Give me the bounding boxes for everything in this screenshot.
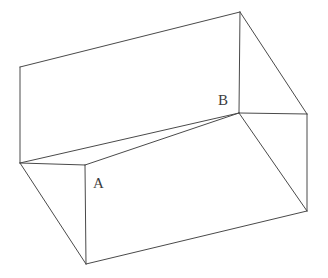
vertex-label-b: B [218, 92, 228, 108]
geometry-figure-canvas: A B [0, 0, 328, 278]
top-right-edge [240, 12, 307, 114]
box-diagram-svg: A B [0, 0, 328, 278]
vertex-label-a: A [93, 175, 104, 191]
hidden-diagonal-left [20, 163, 86, 264]
